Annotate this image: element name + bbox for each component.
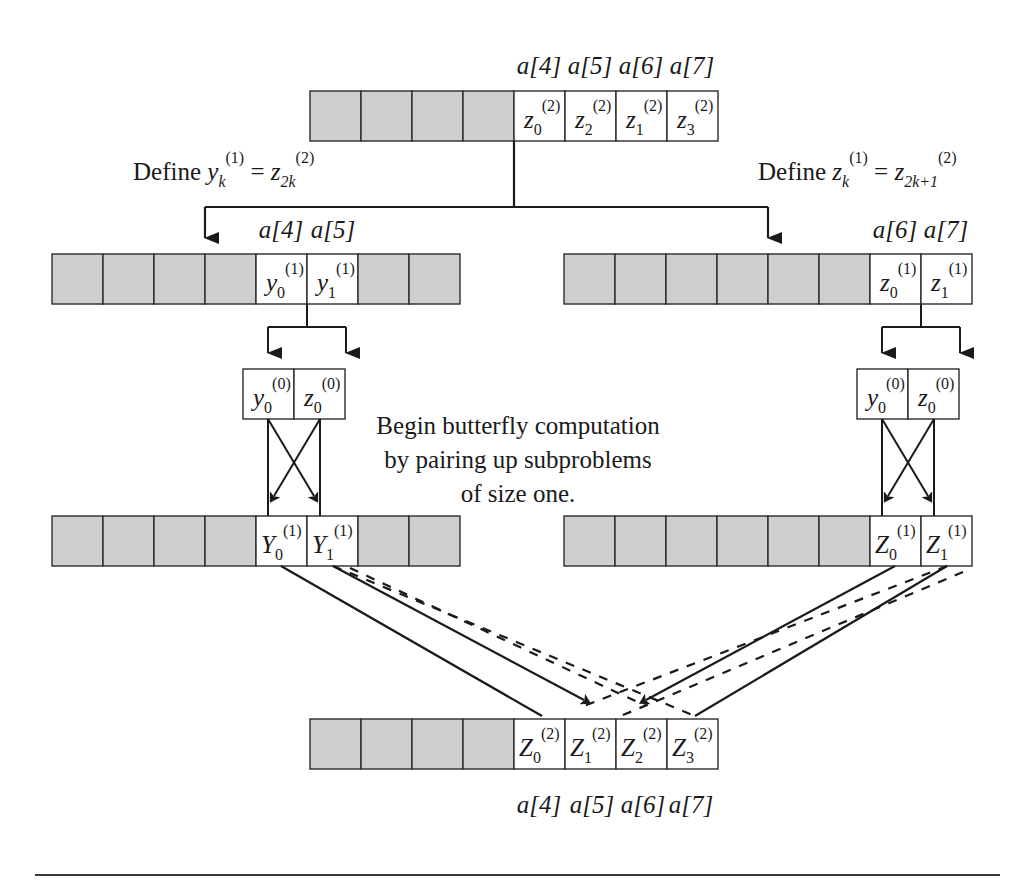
- array-cell: [310, 719, 361, 769]
- array-cell: [103, 254, 154, 304]
- cell-caption: a[4]: [517, 791, 561, 818]
- array-cell: [717, 254, 768, 304]
- merge-line-solid: [695, 566, 947, 716]
- array-cell: [819, 516, 870, 566]
- cell-caption: a[4]: [517, 52, 561, 79]
- cell-caption: a[6]: [619, 52, 663, 79]
- explanation-line: of size one.: [461, 480, 576, 507]
- pair-right-box: y0(0) z0(0): [857, 369, 959, 419]
- cell-caption: a[5]: [311, 216, 355, 243]
- mid-right-array-captions: a[6] a[7]: [873, 216, 968, 243]
- fft-butterfly-diagram: a[4] a[5] a[6] a[7] z0(2) z2(2) z1(2) z3…: [0, 0, 1036, 884]
- array-cell: [666, 254, 717, 304]
- cell-caption: a[6]: [621, 791, 665, 818]
- array-cell: [463, 91, 514, 141]
- mid-left-array: a[4] a[5] y0(1) y1(1): [52, 216, 460, 304]
- final-merge-connectors: [281, 566, 963, 718]
- array-cell: [819, 254, 870, 304]
- define-left-label: Define yk(1) = z2k(2): [133, 149, 314, 190]
- array-cell: [52, 516, 103, 566]
- array-cell: [768, 516, 819, 566]
- array-cell: [103, 516, 154, 566]
- svg-text:Define zk(1) = z2k+1(2): Define zk(1) = z2k+1(2): [758, 149, 957, 190]
- cell-caption: a[6]: [873, 216, 917, 243]
- butterfly-cross-arrow: [888, 419, 934, 496]
- array-cell: [52, 254, 103, 304]
- top-array: a[4] a[5] a[6] a[7] z0(2) z2(2) z1(2) z3…: [310, 52, 718, 141]
- array-cell: [310, 91, 361, 141]
- result-left-array-cells: [52, 516, 460, 566]
- array-cell: [361, 719, 412, 769]
- merge-line-dashed: [333, 566, 695, 716]
- cell-caption: a[5]: [568, 52, 612, 79]
- merge-line-dashed: [616, 572, 963, 718]
- left-butterfly: [268, 419, 320, 516]
- cell-caption: a[7]: [670, 52, 714, 79]
- array-cell: [412, 719, 463, 769]
- butterfly-cross-arrow: [274, 419, 320, 496]
- pair-left-box: y0(0) z0(0): [243, 369, 345, 419]
- array-cell: [409, 516, 460, 566]
- right-pair-split-connector: [882, 304, 960, 353]
- left-pair-split-connector: [268, 304, 346, 353]
- array-cell: [615, 516, 666, 566]
- explanation-line: Begin butterfly computation: [376, 412, 660, 439]
- mid-left-array-cells: [52, 254, 460, 304]
- array-cell: [768, 254, 819, 304]
- array-cell: [154, 516, 205, 566]
- merge-line-solid-arrow: [333, 566, 584, 700]
- array-cell: [564, 516, 615, 566]
- result-right-array: Z0(1) Z1(1): [564, 516, 972, 566]
- cell-caption: a[7]: [669, 791, 713, 818]
- array-cell: [361, 91, 412, 141]
- cell-caption: a[5]: [570, 791, 614, 818]
- bottom-array-captions: a[4] a[5] a[6] a[7]: [517, 791, 713, 818]
- explanation-line: by pairing up subproblems: [384, 446, 651, 473]
- array-cell: [564, 254, 615, 304]
- array-cell: [409, 254, 460, 304]
- array-cell: [666, 516, 717, 566]
- array-cell: [154, 254, 205, 304]
- butterfly-cross-arrow: [268, 419, 314, 496]
- cell-caption: a[4]: [259, 216, 303, 243]
- array-cell: [358, 254, 409, 304]
- array-cell: [205, 516, 256, 566]
- array-cell: [717, 516, 768, 566]
- right-butterfly: [882, 419, 934, 516]
- array-cell: [463, 719, 514, 769]
- top-array-captions: a[4] a[5] a[6] a[7]: [517, 52, 714, 79]
- mid-left-array-captions: a[4] a[5]: [259, 216, 355, 243]
- butterfly-explanation-text: Begin butterfly computation by pairing u…: [376, 412, 660, 507]
- svg-text:Define yk(1) = z2k(2): Define yk(1) = z2k(2): [133, 149, 314, 190]
- merge-line-dashed: [350, 568, 646, 706]
- cell-caption: a[7]: [924, 216, 968, 243]
- array-cell: [412, 91, 463, 141]
- array-cell: [205, 254, 256, 304]
- define-right-label: Define zk(1) = z2k+1(2): [758, 149, 957, 190]
- merge-line-solid: [281, 566, 542, 716]
- array-cell: [615, 254, 666, 304]
- result-left-array: Y0(1) Y1(1): [52, 516, 460, 566]
- butterfly-cross-arrow: [882, 419, 928, 496]
- bottom-array: Z0(2) Z1(2) Z2(2) Z3(2) a[4] a[5] a[6] a…: [310, 719, 718, 818]
- array-cell: [358, 516, 409, 566]
